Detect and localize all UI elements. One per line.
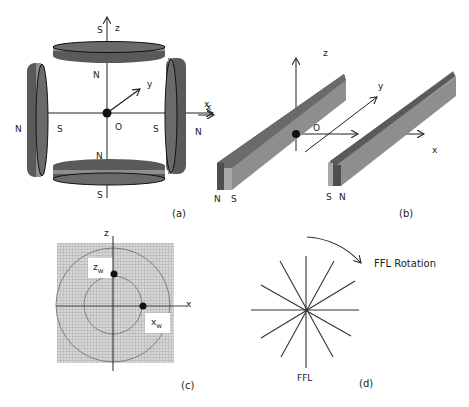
label-top-outer-s: S <box>97 26 103 35</box>
magnet-left <box>27 63 48 177</box>
label-origin-a: O <box>115 123 122 132</box>
magnet-right <box>165 58 186 174</box>
xw-sub: w <box>156 322 162 330</box>
label-ffl-rotation: FFL Rotation <box>374 259 436 269</box>
label-left-inner-s: S <box>57 125 63 134</box>
label-y-b: y <box>378 82 383 91</box>
panel-b <box>198 58 456 190</box>
y-axis-a <box>107 89 140 113</box>
origin-dot-a <box>103 109 112 118</box>
magnet-top <box>53 42 165 64</box>
label-y-a: y <box>147 80 152 89</box>
caption-a: (a) <box>172 209 186 219</box>
grid-area <box>57 243 174 363</box>
xw-dot <box>140 303 147 310</box>
label-left-bar-s: S <box>231 195 237 204</box>
label-top-inner-n: N <box>93 71 100 80</box>
label-right-inner-s: S <box>153 125 159 134</box>
caption-c: (c) <box>181 381 194 391</box>
label-ffl: FFL <box>297 374 312 383</box>
label-bottom-inner-n: N <box>96 152 103 161</box>
label-right-bar-n: N <box>339 193 346 202</box>
label-x-b: x <box>432 146 437 155</box>
ffl-line-b <box>281 261 334 357</box>
zw-sub: w <box>98 267 104 275</box>
label-z-c: z <box>104 229 109 238</box>
magnet-bottom <box>53 159 165 185</box>
label-x-c: x <box>186 300 191 309</box>
panel-d <box>251 237 361 368</box>
zw-dot <box>111 271 118 278</box>
caption-b: (b) <box>399 209 413 219</box>
label-bottom-outer-s: S <box>97 191 103 200</box>
label-left-bar-n: N <box>214 195 221 204</box>
label-z-a: z <box>115 24 120 33</box>
label-right-bar-s: S <box>326 193 332 202</box>
caption-d: (d) <box>359 379 373 389</box>
origin-dot-b <box>292 130 300 138</box>
label-origin-b: O <box>313 124 320 133</box>
label-zw: zw <box>93 263 103 275</box>
panel-a <box>27 17 213 198</box>
bar-magnet-right <box>328 71 456 186</box>
label-right-outer-n: N <box>195 128 202 137</box>
label-xw: xw <box>151 318 162 330</box>
label-left-outer-n: N <box>15 125 22 134</box>
label-x-b-left: x <box>206 103 211 112</box>
bar-magnet-left <box>217 74 346 190</box>
label-z-b: z <box>323 49 328 58</box>
rotation-arrow <box>307 237 361 263</box>
panel-c <box>56 236 187 371</box>
